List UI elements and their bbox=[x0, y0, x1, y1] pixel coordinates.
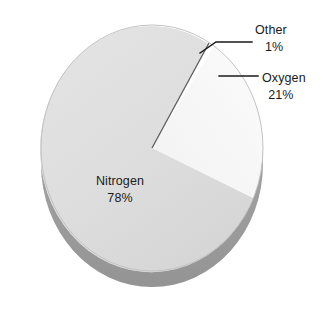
pie-top-face bbox=[40, 25, 263, 272]
slice-label-other-value: 1% bbox=[255, 39, 287, 55]
slice-label-oxygen-value: 21% bbox=[262, 87, 306, 103]
slice-label-nitrogen-value: 78% bbox=[78, 190, 162, 206]
slice-label-nitrogen-name: Nitrogen bbox=[96, 174, 144, 188]
slice-label-other-name: Other bbox=[255, 23, 287, 37]
slice-label-nitrogen: Nitrogen 78% bbox=[78, 170, 162, 206]
slice-label-other: Other 1% bbox=[255, 19, 287, 55]
pie-chart: Other 1% Oxygen 21% Nitrogen 78% bbox=[0, 0, 323, 320]
slice-label-oxygen: Oxygen 21% bbox=[262, 67, 306, 103]
slice-label-oxygen-name: Oxygen bbox=[262, 71, 306, 85]
